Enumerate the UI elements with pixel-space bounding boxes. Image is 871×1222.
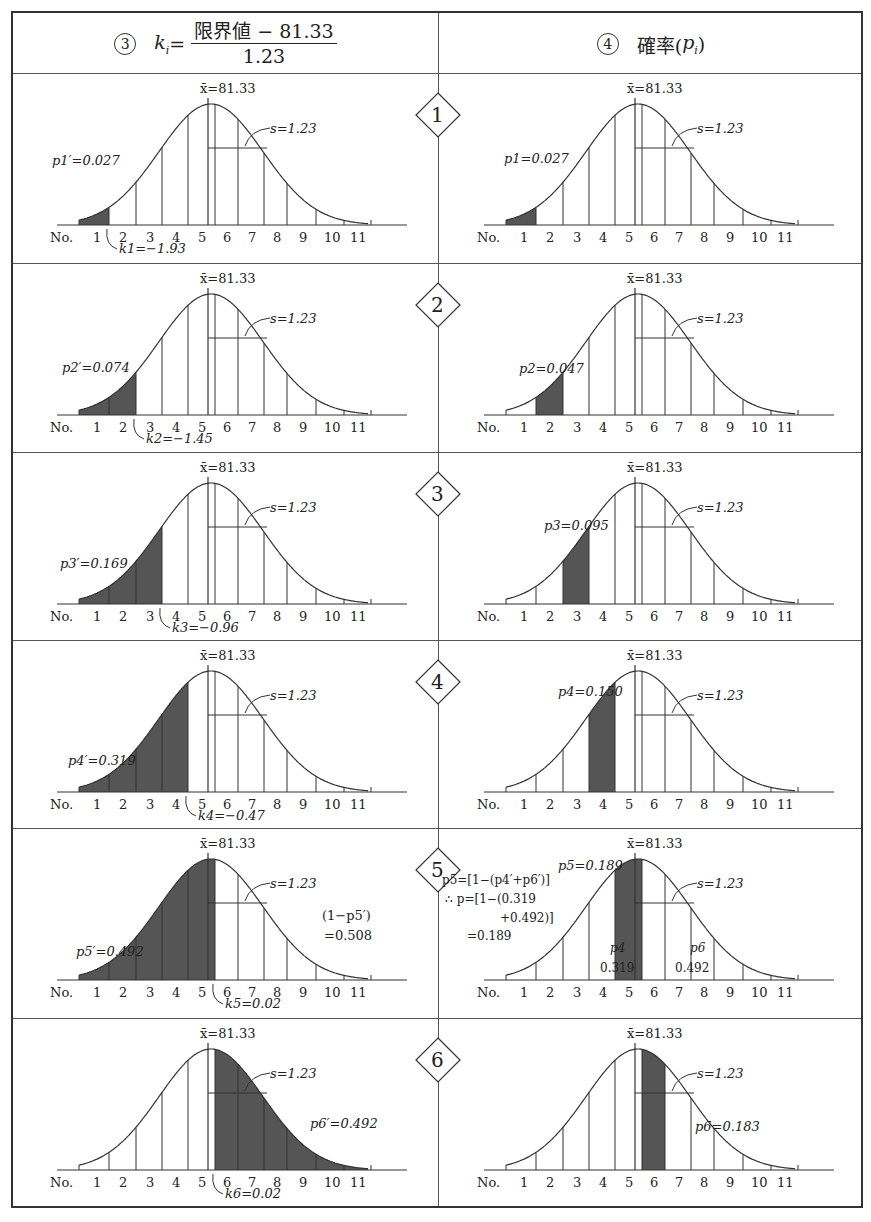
tick-label: 10: [324, 985, 341, 1000]
tick-label: 9: [726, 985, 734, 1000]
sd-label: s=1.23: [270, 500, 317, 515]
tick-label: 4: [599, 797, 607, 812]
area-label: p5=0.189: [558, 858, 623, 873]
mean-label: x̄=81.33: [200, 836, 255, 851]
area-label: p3=0.095: [544, 518, 609, 533]
tick-label: 5: [625, 1175, 633, 1190]
tick-label: 5: [625, 797, 633, 812]
tick-label: 4: [172, 1175, 180, 1190]
tick-label: 6: [223, 420, 231, 435]
area-label: p1′=0.027: [52, 153, 120, 168]
tick-label: 9: [726, 1175, 734, 1190]
tick-label: 9: [299, 609, 307, 624]
tick-label: 10: [751, 985, 768, 1000]
tick-label: 5: [625, 609, 633, 624]
axis-prefix: No.: [50, 609, 73, 624]
tick-label: 1: [93, 797, 101, 812]
tick-label: 2: [546, 420, 554, 435]
k-arrow: [213, 984, 223, 1004]
tick-label: 2: [546, 1175, 554, 1190]
mean-label: x̄=81.33: [627, 271, 682, 286]
tick-label: 9: [299, 420, 307, 435]
p6-label: p6: [690, 941, 706, 955]
sd-label: s=1.23: [270, 311, 317, 326]
axis-prefix: No.: [50, 1175, 73, 1190]
area-label: p3′=0.169: [60, 556, 128, 571]
tick-label: 8: [700, 797, 708, 812]
step-number: 3: [431, 482, 444, 506]
axis-prefix: No.: [477, 1175, 500, 1190]
tick-label: 1: [520, 797, 528, 812]
tick-label: 6: [650, 1175, 658, 1190]
tick-label: 8: [700, 1175, 708, 1190]
formula-line: ∴ p=[1−(0.319: [445, 892, 536, 906]
tick-label: 10: [751, 609, 768, 624]
axis-prefix: No.: [50, 420, 73, 435]
sd-label: s=1.23: [270, 1066, 317, 1081]
tick-label: 1: [93, 420, 101, 435]
tick-label: 3: [573, 230, 581, 245]
tick-label: 2: [119, 1175, 127, 1190]
step-number: 1: [431, 103, 444, 127]
tick-label: 4: [599, 420, 607, 435]
tick-label: 6: [650, 609, 658, 624]
tick-label: 5: [625, 230, 633, 245]
tick-label: 4: [599, 230, 607, 245]
sd-label: s=1.23: [697, 500, 744, 515]
tick-label: 1: [93, 609, 101, 624]
axis-prefix: No.: [477, 609, 500, 624]
k-label: k1=−1.93: [119, 241, 186, 256]
tick-label: 1: [93, 1175, 101, 1190]
tick-label: 3: [146, 1175, 154, 1190]
tick-label: 6: [650, 420, 658, 435]
step-number: 6: [431, 1048, 444, 1072]
tick-label: 11: [350, 230, 367, 245]
chart-6-right: x̄=81.33s=1.23No.1234567891011p6=0.183: [477, 1026, 834, 1190]
tick-label: 9: [726, 797, 734, 812]
chart-1-right: x̄=81.33s=1.23No.1234567891011p1=0.027: [477, 81, 834, 245]
tick-label: 4: [599, 985, 607, 1000]
tick-label: 10: [751, 420, 768, 435]
tick-label: 4: [172, 985, 180, 1000]
p4-value: 0.319: [600, 961, 634, 975]
shaded-area: [642, 1049, 665, 1170]
shaded-area: [79, 682, 188, 792]
k-label: k6=0.02: [225, 1186, 281, 1201]
tick-label: 2: [119, 420, 127, 435]
tick-label: 3: [146, 797, 154, 812]
sd-label: s=1.23: [697, 311, 744, 326]
sd-label: s=1.23: [697, 121, 744, 136]
complement-label: (1−p5′): [322, 908, 371, 923]
mean-label: x̄=81.33: [200, 460, 255, 475]
axis-prefix: No.: [50, 230, 73, 245]
mean-label: x̄=81.33: [627, 836, 682, 851]
tick-label: 4: [172, 797, 180, 812]
tick-label: 4: [599, 609, 607, 624]
tick-label: 7: [675, 1175, 683, 1190]
step-number: 4: [431, 670, 444, 694]
tick-label: 10: [751, 797, 768, 812]
sd-label: s=1.23: [697, 1066, 744, 1081]
tick-label: 6: [650, 985, 658, 1000]
tick-label: 1: [520, 609, 528, 624]
tick-label: 3: [573, 609, 581, 624]
tick-label: 5: [625, 985, 633, 1000]
tick-label: 11: [350, 609, 367, 624]
tick-label: 2: [119, 985, 127, 1000]
k-label: k4=−0.47: [198, 808, 266, 823]
tick-label: 1: [520, 1175, 528, 1190]
tick-label: 11: [350, 985, 367, 1000]
tick-label: 10: [751, 230, 768, 245]
tick-label: 3: [573, 797, 581, 812]
tick-label: 2: [546, 230, 554, 245]
tick-label: 1: [520, 230, 528, 245]
tick-label: 10: [324, 230, 341, 245]
tick-label: 11: [777, 985, 794, 1000]
chart-3-right: x̄=81.33s=1.23No.1234567891011p3=0.095: [477, 460, 834, 624]
mean-label: x̄=81.33: [200, 648, 255, 663]
p4-label: p4: [610, 941, 625, 955]
chart-1-left: x̄=81.33s=1.23No.1234567891011k1=−1.93p1…: [50, 81, 407, 256]
normal-curve: [79, 104, 368, 224]
tick-label: 9: [726, 230, 734, 245]
tick-label: 1: [520, 420, 528, 435]
